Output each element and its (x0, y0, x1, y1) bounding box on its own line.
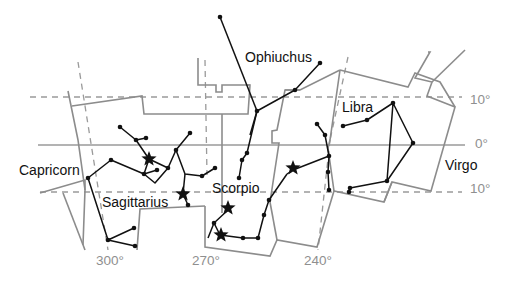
star-dot (365, 118, 370, 123)
declination-label: 0° (475, 136, 488, 151)
star-dot (255, 109, 260, 114)
star-dot (188, 131, 193, 136)
star-dot (327, 188, 332, 193)
stick-line (349, 181, 387, 192)
star-dot (411, 141, 416, 146)
star-dot (174, 148, 179, 153)
constellation-boundary (137, 206, 205, 250)
star-dot (142, 172, 147, 177)
right-ascension-label: 300° (96, 253, 124, 268)
constellation-boundary (40, 180, 85, 193)
constellation-map: OphiuchusLibraCapricornSagittariusScorpi… (0, 0, 505, 283)
star-dot (144, 136, 149, 141)
star-dot (132, 226, 137, 231)
star-dot (347, 190, 352, 195)
bright-star-icon (141, 151, 156, 166)
star-dot (133, 244, 138, 249)
label-sagittarius: Sagittarius (102, 194, 168, 210)
constellation-boundary (432, 50, 465, 82)
declination-label: 10° (470, 181, 490, 196)
star-dot (391, 101, 396, 106)
star-dot (212, 221, 217, 226)
star-dot (166, 166, 171, 171)
star-dot (267, 198, 272, 203)
star-dot (348, 186, 353, 191)
star-dot (341, 124, 346, 129)
ra-gridline (205, 60, 207, 175)
star-dot (385, 179, 390, 184)
label-virgo: Virgo (445, 157, 478, 173)
star-dot (186, 203, 191, 208)
bright-star-icon (213, 227, 228, 242)
star-dot (245, 151, 250, 156)
constellation-boundary (270, 90, 300, 202)
constellation-boundary (63, 193, 85, 250)
label-libra: Libra (342, 99, 373, 115)
star-dot (106, 238, 111, 243)
star-dot (200, 174, 205, 179)
ra-gridline (78, 62, 108, 250)
stick-line (176, 150, 215, 176)
bright-star-icon (285, 160, 300, 175)
star-dot (86, 176, 91, 181)
stick-line (250, 111, 257, 135)
star-dot (323, 133, 328, 138)
declination-label: 10° (470, 92, 490, 107)
stick-line (257, 63, 320, 111)
stick-line (120, 127, 146, 140)
stick-figure-libra (343, 103, 413, 192)
constellation-boundary (285, 70, 340, 90)
right-ascension-label: 240° (304, 253, 332, 268)
star-dot (109, 158, 114, 163)
star-dot (262, 213, 267, 218)
axis-labels: 10°0°10°300°270°240° (96, 92, 490, 268)
star-dot (218, 15, 223, 20)
star-dot (155, 168, 160, 173)
star-dot (134, 138, 139, 143)
star-dot (256, 236, 261, 241)
label-ophiuchus: Ophiuchus (245, 49, 312, 65)
star-dot (318, 61, 323, 66)
constellation-boundary (270, 202, 277, 240)
star-dot (326, 170, 331, 175)
constellation-boundary (72, 85, 250, 114)
star-dot (327, 154, 332, 159)
bright-star-icon (175, 186, 190, 201)
label-capricorn: Capricorn (19, 162, 80, 178)
star-dot (118, 125, 123, 130)
star-dot (240, 158, 245, 163)
label-scorpio: Scorpio (212, 180, 260, 196)
star-dot (241, 236, 246, 241)
right-ascension-label: 270° (192, 253, 220, 268)
stick-line (317, 124, 329, 156)
star-dot (315, 122, 320, 127)
stick-line (108, 240, 135, 246)
star-dot (213, 166, 218, 171)
star-dot (293, 88, 298, 93)
